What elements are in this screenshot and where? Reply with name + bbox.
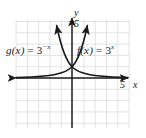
graph-canvas	[0, 0, 146, 138]
annotation-f-function: f(x) = 3x	[77, 45, 114, 56]
annotation-f-equals: =	[96, 44, 102, 56]
y-axis-label: y	[74, 8, 78, 18]
annotation-g-equals: =	[27, 44, 33, 56]
annotation-f-exponent: x	[111, 43, 114, 50]
annotation-g-exponent: −x	[43, 43, 51, 50]
annotation-g-name: g(x)	[6, 44, 25, 56]
exponential-functions-graph-figure: g(x) = 3−x f(x) = 3x y x 5 5	[0, 0, 146, 138]
y-axis-tick-label-5: 5	[74, 19, 79, 29]
annotation-g-function: g(x) = 3−x	[6, 45, 51, 56]
x-axis-label: x	[133, 80, 137, 90]
annotation-f-name: f(x)	[77, 44, 93, 56]
x-axis-tick-label-5: 5	[120, 80, 125, 90]
